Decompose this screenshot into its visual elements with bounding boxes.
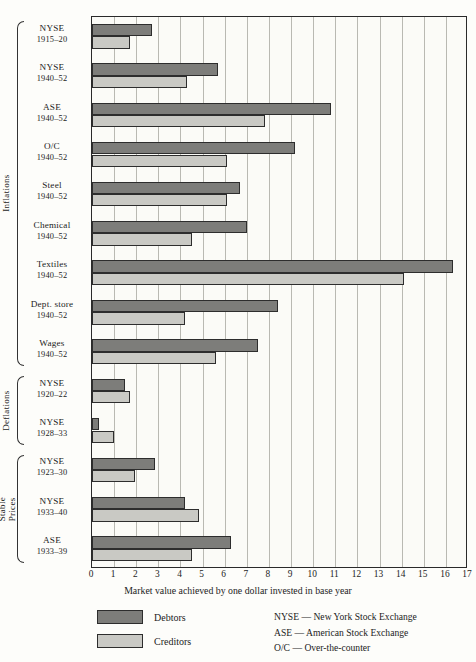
category-label-3: O/C1940–52 bbox=[16, 142, 88, 162]
abbreviation-notes: NYSE — New York Stock ExchangeASE — Amer… bbox=[274, 609, 417, 656]
group-label-line-1: Prices bbox=[8, 455, 18, 563]
category-period: 1940–52 bbox=[16, 114, 88, 123]
bar-debtors-10 bbox=[92, 418, 99, 430]
legend-label: Debtors bbox=[154, 612, 186, 623]
bars-layer bbox=[92, 17, 466, 567]
bar-debtors-11 bbox=[92, 458, 155, 470]
bar-debtors-5 bbox=[92, 221, 247, 233]
category-name: Textiles bbox=[16, 260, 88, 270]
bar-chart: NYSE1915–20NYSE1940–52ASE1940–52O/C1940–… bbox=[0, 0, 476, 662]
x-tick-13: 13 bbox=[374, 569, 383, 579]
group-label-1: Deflations bbox=[2, 376, 16, 445]
category-label-2: ASE1940–52 bbox=[16, 103, 88, 123]
bar-creditors-11 bbox=[92, 470, 135, 482]
category-period: 1940–52 bbox=[16, 74, 88, 83]
bar-debtors-1 bbox=[92, 63, 218, 75]
legend-swatch-creditors bbox=[97, 634, 143, 648]
category-name: NYSE bbox=[16, 24, 88, 34]
x-tick-11: 11 bbox=[330, 569, 339, 579]
legend-label: Creditors bbox=[154, 636, 191, 647]
bar-creditors-5 bbox=[92, 233, 192, 245]
abbreviation-line-1: ASE — American Stock Exchange bbox=[274, 625, 417, 641]
bar-creditors-2 bbox=[92, 115, 265, 127]
x-tick-0: 0 bbox=[89, 569, 94, 579]
category-label-5: Chemical1940–52 bbox=[16, 221, 88, 241]
category-label-7: Dept. store1940–52 bbox=[16, 300, 88, 320]
bar-creditors-3 bbox=[92, 155, 227, 167]
x-axis-label: Market value achieved by one dollar inve… bbox=[0, 585, 476, 596]
category-name: Wages bbox=[16, 339, 88, 349]
category-period: 1920–22 bbox=[16, 390, 88, 399]
bar-debtors-9 bbox=[92, 379, 125, 391]
bar-creditors-13 bbox=[92, 549, 192, 561]
x-tick-12: 12 bbox=[352, 569, 361, 579]
bar-debtors-6 bbox=[92, 260, 453, 272]
category-period: 1915–20 bbox=[16, 35, 88, 44]
legend-swatch-debtors bbox=[97, 610, 143, 624]
category-period: 1940–52 bbox=[16, 192, 88, 201]
category-period: 1928–33 bbox=[16, 429, 88, 438]
abbreviation-line-2: O/C — Over-the-counter bbox=[274, 640, 417, 656]
bar-creditors-4 bbox=[92, 194, 227, 206]
x-tick-7: 7 bbox=[243, 569, 248, 579]
bar-debtors-2 bbox=[92, 103, 331, 115]
bar-debtors-7 bbox=[92, 300, 278, 312]
category-name: Chemical bbox=[16, 221, 88, 231]
bar-creditors-1 bbox=[92, 76, 187, 88]
category-name: NYSE bbox=[16, 457, 88, 467]
category-label-6: Textiles1940–52 bbox=[16, 260, 88, 280]
category-label-1: NYSE1940–52 bbox=[16, 63, 88, 83]
plot-area bbox=[91, 16, 467, 568]
category-name: NYSE bbox=[16, 379, 88, 389]
category-name: Dept. store bbox=[16, 300, 88, 310]
bar-debtors-3 bbox=[92, 142, 295, 154]
category-name: ASE bbox=[16, 103, 88, 113]
bar-creditors-9 bbox=[92, 391, 130, 403]
x-tick-4: 4 bbox=[177, 569, 182, 579]
bar-debtors-4 bbox=[92, 182, 240, 194]
category-label-10: NYSE1928–33 bbox=[16, 418, 88, 438]
category-axis: NYSE1915–20NYSE1940–52ASE1940–52O/C1940–… bbox=[0, 16, 91, 568]
category-period: 1923–30 bbox=[16, 468, 88, 477]
abbreviation-line-0: NYSE — New York Stock Exchange bbox=[274, 609, 417, 625]
category-name: ASE bbox=[16, 536, 88, 546]
bar-debtors-0 bbox=[92, 24, 152, 36]
bar-creditors-0 bbox=[92, 36, 130, 48]
group-label-2: StablePrices bbox=[0, 455, 20, 563]
category-period: 1933–39 bbox=[16, 547, 88, 556]
x-tick-6: 6 bbox=[221, 569, 226, 579]
x-tick-16: 16 bbox=[440, 569, 449, 579]
category-period: 1940–52 bbox=[16, 153, 88, 162]
group-bracket-0 bbox=[17, 21, 24, 366]
x-tick-17: 17 bbox=[462, 569, 471, 579]
legend-item-creditors: Creditors bbox=[97, 634, 191, 648]
category-name: Steel bbox=[16, 181, 88, 191]
category-label-12: NYSE1933–40 bbox=[16, 497, 88, 517]
x-axis-ticks: 01234567891011121314151617 bbox=[91, 569, 467, 585]
x-tick-5: 5 bbox=[199, 569, 204, 579]
bar-debtors-13 bbox=[92, 536, 231, 548]
category-label-0: NYSE1915–20 bbox=[16, 24, 88, 44]
x-tick-3: 3 bbox=[155, 569, 160, 579]
category-label-8: Wages1940–52 bbox=[16, 339, 88, 359]
category-name: NYSE bbox=[16, 497, 88, 507]
bar-creditors-7 bbox=[92, 312, 185, 324]
category-name: NYSE bbox=[16, 418, 88, 428]
category-label-9: NYSE1920–22 bbox=[16, 379, 88, 399]
x-tick-1: 1 bbox=[111, 569, 116, 579]
bar-creditors-12 bbox=[92, 509, 199, 521]
category-label-4: Steel1940–52 bbox=[16, 181, 88, 201]
x-tick-8: 8 bbox=[266, 569, 271, 579]
category-label-13: ASE1933–39 bbox=[16, 536, 88, 556]
bar-debtors-12 bbox=[92, 497, 185, 509]
x-tick-2: 2 bbox=[133, 569, 138, 579]
category-name: O/C bbox=[16, 142, 88, 152]
bar-debtors-8 bbox=[92, 339, 258, 351]
category-label-11: NYSE1923–30 bbox=[16, 457, 88, 477]
x-tick-10: 10 bbox=[307, 569, 316, 579]
category-period: 1933–40 bbox=[16, 508, 88, 517]
x-tick-15: 15 bbox=[418, 569, 427, 579]
category-name: NYSE bbox=[16, 63, 88, 73]
x-tick-14: 14 bbox=[396, 569, 405, 579]
category-period: 1940–52 bbox=[16, 232, 88, 241]
